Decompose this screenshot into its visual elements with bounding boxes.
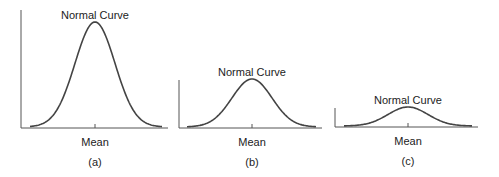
axes-b	[179, 80, 322, 128]
normal-curve-b	[187, 79, 316, 127]
panel-a: Normal Curve Mean (a)	[21, 9, 168, 168]
panel-caption-c: (c)	[402, 155, 415, 167]
mean-label-a: Mean	[81, 136, 109, 148]
normal-curve-a	[30, 22, 162, 127]
panel-caption-a: (a)	[88, 156, 101, 168]
curve-title-c: Normal Curve	[374, 94, 442, 106]
axes-a	[21, 10, 168, 128]
panel-b: Normal Curve Mean (b)	[179, 66, 322, 168]
normal-curves-figure: Normal Curve Mean (a) Normal Curve Mean …	[0, 0, 499, 177]
axes-c	[335, 108, 478, 127]
mean-label-b: Mean	[238, 136, 266, 148]
curve-title-b: Normal Curve	[218, 66, 286, 78]
panel-caption-b: (b)	[245, 156, 258, 168]
curve-title-a: Normal Curve	[61, 9, 129, 21]
panel-c: Normal Curve Mean (c)	[335, 94, 478, 167]
mean-label-c: Mean	[394, 135, 422, 147]
